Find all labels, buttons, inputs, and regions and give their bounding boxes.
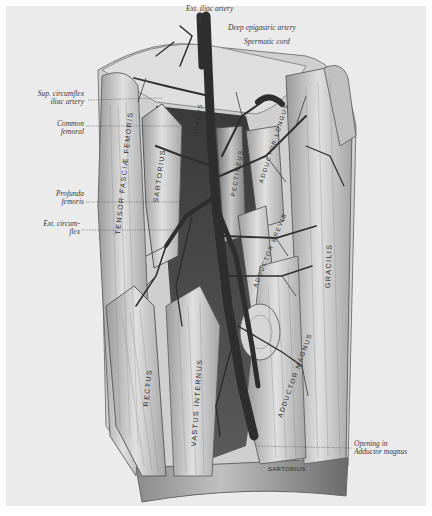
label-line-2: femoris	[10, 198, 84, 206]
label-common-femoral: Common femoral	[10, 120, 84, 136]
label-line-2: flex	[10, 228, 80, 236]
muscle-sartorius-bottom: SARTORIUS	[268, 466, 306, 472]
label-spermatic-cord: Spermatic cord	[244, 38, 290, 46]
label-line-2: femoral	[10, 128, 84, 136]
label-sup-circumflex-iliac-artery: Sup. circumflex iliac artery	[10, 90, 84, 106]
anatomy-plate: Ext. iliac artery Deep epigastric artery…	[6, 6, 426, 506]
label-line-2: Adductor magnus	[354, 448, 407, 456]
label-opening-adductor-magnus: Opening in Adductor magnus	[354, 440, 407, 456]
label-ext-circumflex: Ext. circum- flex	[10, 220, 80, 236]
label-line-2: iliac artery	[10, 98, 84, 106]
label-ext-iliac-artery: Ext. iliac artery	[186, 5, 233, 13]
thigh-illustration	[6, 6, 426, 506]
label-deep-epigastric-artery: Deep epigastric artery	[228, 24, 296, 32]
label-profunda-femoris: Profunda femoris	[10, 190, 84, 206]
